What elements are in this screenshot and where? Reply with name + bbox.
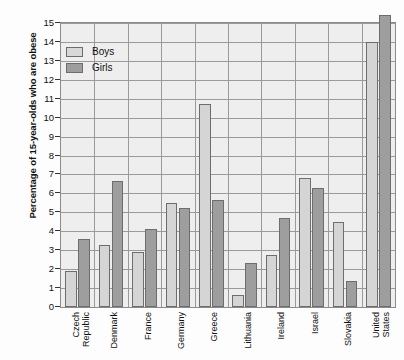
x-axis-tick-label: Slovakia [343, 312, 353, 358]
bar-boys-united-states [366, 42, 378, 307]
y-axis-tick-label: 12 [30, 73, 54, 84]
bar-boys-czech-republic [65, 271, 77, 307]
y-axis-tick-label: 5 [30, 206, 54, 217]
x-axis-tick-label: Denmark [109, 312, 119, 358]
category-separator [328, 23, 329, 307]
legend-label: Boys [92, 46, 114, 57]
bar-boys-greece [199, 104, 211, 307]
bar-boys-slovakia [333, 222, 345, 307]
y-axis-tick-label: 1 [30, 282, 54, 293]
y-axis-tick-label: 6 [30, 187, 54, 198]
legend-item-girls: Girls [66, 60, 114, 75]
legend-item-boys: Boys [66, 44, 114, 59]
x-axis-tick-label: Ireland [276, 312, 286, 358]
bar-girls-ireland [279, 218, 291, 307]
y-axis-tick-mark [55, 249, 60, 250]
y-axis-tick-label: 14 [30, 35, 54, 46]
y-axis-tick-mark [55, 306, 60, 307]
y-axis-tick-label: 11 [30, 92, 54, 103]
y-axis-tick-mark [55, 98, 60, 99]
category-separator [228, 23, 229, 307]
bar-girls-united-states [379, 15, 391, 307]
x-axis-tick-label: Israel [310, 312, 320, 358]
y-axis-tick-mark [55, 173, 60, 174]
bar-boys-lithuania [232, 295, 244, 307]
legend-swatch-girls [66, 63, 83, 73]
legend-swatch-boys [66, 47, 83, 57]
y-axis-tick-label: 7 [30, 168, 54, 179]
y-axis-tick-label: 15 [30, 17, 54, 28]
bar-boys-ireland [266, 255, 278, 307]
x-axis-tick-label: Germany [176, 312, 186, 358]
bar-girls-denmark [112, 181, 124, 307]
x-axis-tick-label: France [143, 312, 153, 358]
category-separator [195, 23, 196, 307]
y-axis-tick-mark [55, 136, 60, 137]
y-axis-tick-label: 10 [30, 111, 54, 122]
y-axis-tick-label: 3 [30, 244, 54, 255]
bar-girls-czech-republic [78, 239, 90, 307]
chart-figure: Percentage of 15-year-olds who are obese… [0, 0, 404, 360]
bar-girls-lithuania [245, 263, 257, 307]
bar-girls-israel [312, 188, 324, 307]
category-separator [362, 23, 363, 307]
y-axis-tick-mark [55, 287, 60, 288]
bar-boys-denmark [99, 245, 111, 307]
bar-girls-germany [179, 208, 191, 307]
category-separator [128, 23, 129, 307]
category-separator [295, 23, 296, 307]
y-axis-tick-label: 8 [30, 149, 54, 160]
y-axis-tick-label: 0 [30, 301, 54, 312]
y-axis-tick-label: 9 [30, 130, 54, 141]
category-separator [161, 23, 162, 307]
y-axis-tick-label: 4 [30, 225, 54, 236]
y-axis-tick-mark [55, 211, 60, 212]
y-axis-tick-mark [55, 192, 60, 193]
bar-boys-israel [299, 178, 311, 307]
y-axis-tick-label: 13 [30, 54, 54, 65]
bar-girls-slovakia [346, 281, 358, 308]
bar-girls-greece [212, 200, 224, 307]
x-axis-tick-label: Greece [209, 312, 219, 358]
x-axis-tick-label: CzechRepublic [71, 312, 91, 358]
y-axis-tick-mark [55, 230, 60, 231]
y-axis-tick-mark [55, 155, 60, 156]
x-axis-tick-label: Lithuania [243, 312, 253, 358]
y-axis-tick-mark [55, 117, 60, 118]
bar-boys-france [132, 252, 144, 307]
y-axis-tick-mark [55, 268, 60, 269]
category-separator [261, 23, 262, 307]
y-axis-tick-mark [55, 60, 60, 61]
y-axis-tick-label: 2 [30, 263, 54, 274]
bar-girls-france [145, 229, 157, 307]
y-axis-tick-mark [55, 41, 60, 42]
bar-boys-germany [166, 203, 178, 307]
x-axis-tick-label: UnitedStates [371, 312, 391, 358]
legend-label: Girls [92, 62, 113, 73]
y-axis-tick-mark [55, 22, 60, 23]
y-axis-tick-mark [55, 79, 60, 80]
chart-legend: BoysGirls [62, 40, 120, 79]
